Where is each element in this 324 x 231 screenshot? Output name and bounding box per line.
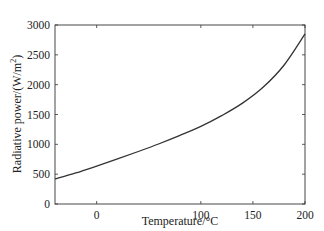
y-tick-label: 0 [44,198,50,210]
y-tick-label: 3000 [27,19,50,31]
y-tick-label: 1000 [27,138,50,150]
x-axis-ticks: 0100150200 [94,25,314,221]
y-tick-label: 1500 [27,109,50,121]
y-axis-ticks: 050010001500200025003000 [27,19,305,210]
y-tick-label: 500 [33,168,51,180]
line-chart: 050010001500200025003000 0100150200 Temp… [0,0,324,231]
y-tick-label: 2000 [27,79,50,91]
x-tick-label: 0 [94,209,100,221]
data-series [55,34,305,179]
y-axis-label: Radiative power/(W/m2) [9,55,24,173]
x-tick-label: 150 [244,209,262,221]
y-tick-label: 2500 [27,49,50,61]
x-axis-label: Temperature/°C [142,214,219,228]
x-tick-label: 200 [296,209,314,221]
plot-border [55,25,305,204]
plot-frame [55,25,305,204]
series-line [55,34,305,179]
